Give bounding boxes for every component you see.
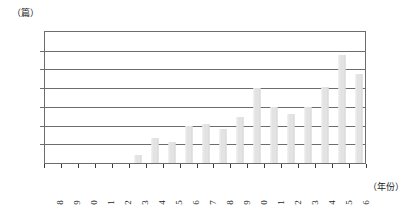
x-axis-tick-label: 2003: [141, 200, 150, 205]
bar: [270, 107, 277, 163]
bar-slot: [164, 32, 181, 163]
x-axis-tick-label: 2012: [294, 200, 303, 205]
bar: [219, 129, 226, 163]
bar: [321, 87, 328, 163]
x-axis-tick-label: 2007: [209, 200, 218, 205]
x-axis-tick-label: 2005: [175, 200, 184, 205]
bar-slot: [214, 32, 231, 163]
x-axis-tick-label: 2015: [345, 200, 354, 205]
bar: [304, 107, 311, 163]
bar: [287, 114, 294, 163]
bar-slot: [333, 32, 350, 163]
bar-slot: [130, 32, 147, 163]
x-axis-tick-label: 2009: [243, 200, 252, 205]
x-axis-tick-label: 2010: [260, 200, 269, 205]
bar: [186, 126, 193, 163]
bar: [135, 155, 142, 163]
bar-slot: [79, 32, 96, 163]
bar-slot: [96, 32, 113, 163]
bar-slot: [248, 32, 265, 163]
bar-slot: [62, 32, 79, 163]
x-axis-tick-labels: 1998199920002001200220032004200520062007…: [44, 168, 366, 205]
bar-slot: [231, 32, 248, 163]
bar: [152, 138, 159, 163]
x-axis-tick-label: 2016: [362, 200, 371, 205]
x-axis-tick-label: 2008: [226, 200, 235, 205]
x-axis-unit-label: （年份）: [368, 182, 404, 192]
bar: [236, 117, 243, 163]
bar-slot: [147, 32, 164, 163]
bar-series: [45, 32, 365, 163]
y-axis-tick-labels: 050100150200250300350: [0, 0, 44, 205]
x-axis-tick-label: 2000: [90, 200, 99, 205]
x-axis-tick-label: 2001: [107, 200, 116, 205]
x-axis-tick-label: 1998: [56, 200, 65, 205]
bar: [169, 142, 176, 163]
bar-slot: [350, 32, 367, 163]
x-axis-tick-label: 2004: [158, 200, 167, 205]
x-axis-tick-label: 2006: [192, 200, 201, 205]
bar: [253, 88, 260, 163]
bar-slot: [113, 32, 130, 163]
bar: [338, 55, 345, 163]
bar-slot: [181, 32, 198, 163]
x-axis-tick-label: 2014: [328, 200, 337, 205]
bar-slot: [282, 32, 299, 163]
x-axis-tick-label: 2011: [277, 200, 286, 205]
bar-slot: [45, 32, 62, 163]
x-axis-tick-label: 1999: [73, 200, 82, 205]
bar-slot: [316, 32, 333, 163]
bar: [202, 124, 209, 163]
bar-chart: （篇） 050100150200250300350 19981999200020…: [0, 0, 413, 205]
x-axis-tick: [366, 164, 367, 168]
x-axis-tick-label: 2013: [311, 200, 320, 205]
bar-slot: [198, 32, 215, 163]
bar-slot: [265, 32, 282, 163]
bar: [355, 74, 362, 163]
x-axis-tick-label: 2002: [124, 200, 133, 205]
bar-slot: [299, 32, 316, 163]
